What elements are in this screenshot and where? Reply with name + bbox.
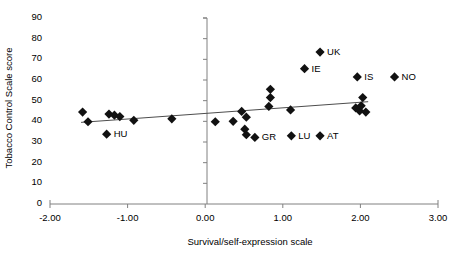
- scatter-chart: Tobacco Control Scale score Survival/sel…: [0, 0, 459, 260]
- x-tick-label: -1.00: [105, 212, 151, 223]
- x-tick-label: -2.00: [27, 212, 73, 223]
- data-point: [353, 72, 362, 81]
- y-tick-label: 90: [20, 11, 42, 22]
- point-label-ie: IE: [312, 63, 321, 74]
- y-tick-label: 50: [20, 94, 42, 105]
- x-tick-label: 1.00: [260, 212, 306, 223]
- data-point: [250, 133, 259, 142]
- x-tick-label: 3.00: [415, 212, 459, 223]
- data-point: [390, 72, 399, 81]
- data-point: [300, 64, 309, 73]
- x-tick-label: 2.00: [337, 212, 383, 223]
- x-axis-title: Survival/self-expression scale: [140, 236, 360, 247]
- data-point: [102, 130, 111, 139]
- y-tick-label: 40: [20, 114, 42, 125]
- y-tick-label: 80: [20, 32, 42, 43]
- y-tick-label: 0: [20, 197, 42, 208]
- trend-line: [81, 102, 368, 123]
- y-tick-label: 20: [20, 156, 42, 167]
- data-point: [358, 93, 367, 102]
- data-point: [266, 93, 275, 102]
- y-tick-label: 70: [20, 52, 42, 63]
- data-point: [211, 117, 220, 126]
- data-point: [129, 116, 138, 125]
- x-tick-label: 0.00: [182, 212, 228, 223]
- data-point: [315, 131, 324, 140]
- data-point: [287, 131, 296, 140]
- data-point: [229, 117, 238, 126]
- data-point: [264, 102, 273, 111]
- y-axis-title: Tobacco Control Scale score: [2, 0, 16, 218]
- data-point: [83, 117, 92, 126]
- data-point: [266, 85, 275, 94]
- point-label-at: AT: [327, 130, 338, 141]
- y-tick-label: 30: [20, 135, 42, 146]
- point-label-hu: HU: [114, 128, 128, 139]
- y-tick-label: 60: [20, 73, 42, 84]
- point-label-no: NO: [402, 71, 416, 82]
- data-point: [78, 107, 87, 116]
- point-label-uk: UK: [327, 46, 340, 57]
- data-point: [315, 48, 324, 57]
- point-label-lu: LU: [298, 130, 310, 141]
- point-label-gr: GR: [262, 131, 276, 142]
- point-label-is: IS: [364, 71, 373, 82]
- y-tick-label: 10: [20, 176, 42, 187]
